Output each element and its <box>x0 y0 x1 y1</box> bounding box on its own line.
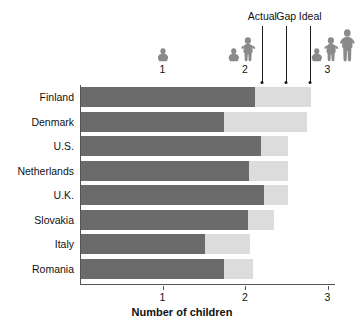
pictogram-label-two: 2 <box>242 63 248 75</box>
bar-segment-gap <box>261 136 288 156</box>
bar-segment-actual <box>81 87 255 107</box>
bar-row <box>81 112 335 132</box>
bar-row <box>81 210 335 230</box>
callout-label-actual: Actual <box>248 10 277 22</box>
y-axis-label-denmark: Denmark <box>0 116 74 128</box>
bar-row <box>81 259 335 279</box>
bar-row <box>81 234 335 254</box>
pictogram-label-three: 3 <box>325 63 331 75</box>
bar-row <box>81 161 335 181</box>
x-tick-label-2: 2 <box>242 291 248 303</box>
pictogram-label-one: 1 <box>160 63 166 75</box>
callout-label-gap: Gap <box>276 10 296 22</box>
y-axis-label-italy: Italy <box>0 238 74 250</box>
pictogram-child-icon <box>240 37 255 62</box>
bar-row <box>81 87 335 107</box>
pictogram-toddler-icon <box>157 48 168 62</box>
callout-leader-line-actual <box>262 26 263 82</box>
y-axis-label-netherlands: Netherlands <box>0 165 74 177</box>
bar-segment-gap <box>249 161 288 181</box>
callout-dot-gap <box>285 81 288 84</box>
pictogram-toddler-icon <box>311 48 322 62</box>
pictogram-teen-icon <box>339 29 355 62</box>
pictogram-toddler-icon <box>228 48 239 62</box>
callout-dot-ideal <box>309 81 312 84</box>
bar-segment-gap <box>224 112 307 132</box>
bar-row <box>81 136 335 156</box>
y-axis-label-finland: Finland <box>0 91 74 103</box>
bar-row <box>81 185 335 205</box>
x-tick-mark-2 <box>245 286 246 290</box>
bar-segment-actual <box>81 210 248 230</box>
bar-segment-gap <box>264 185 288 205</box>
callout-leader-line-gap <box>286 26 287 82</box>
x-tick-label-3: 3 <box>325 291 331 303</box>
x-axis-title: Number of children <box>0 306 364 318</box>
y-axis-label-slovakia: Slovakia <box>0 214 74 226</box>
x-tick-mark-3 <box>328 286 329 290</box>
chart-container: Actual Gap Ideal 1 2 3 Finland Denmark U… <box>0 0 364 322</box>
x-tick-mark-1 <box>163 286 164 290</box>
y-axis-label-uk: U.K. <box>0 189 74 201</box>
bar-segment-gap <box>224 259 253 279</box>
callout-label-ideal: Ideal <box>299 10 322 22</box>
pictogram-child-icon <box>323 37 338 62</box>
bar-segment-actual <box>81 259 224 279</box>
pictogram-group-three-children <box>311 29 355 62</box>
bar-segment-actual <box>81 161 249 181</box>
bar-segment-actual <box>81 234 205 254</box>
bar-segment-gap <box>205 234 250 254</box>
bar-segment-actual <box>81 112 224 132</box>
bar-segment-gap <box>255 87 311 107</box>
bar-segment-actual <box>81 185 264 205</box>
bar-segment-actual <box>81 136 261 156</box>
pictogram-group-one-child <box>157 29 168 62</box>
pictogram-group-two-children <box>228 29 255 62</box>
x-tick-label-1: 1 <box>160 291 166 303</box>
y-axis-label-us: U.S. <box>0 140 74 152</box>
y-axis-label-romania: Romania <box>0 263 74 275</box>
plot-area <box>80 85 335 285</box>
bar-segment-gap <box>248 210 274 230</box>
callout-dot-actual <box>261 81 264 84</box>
